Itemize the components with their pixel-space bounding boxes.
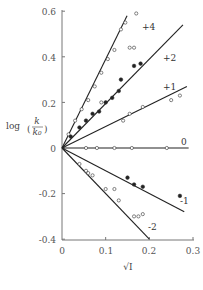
series-label-plus2: +2 (163, 53, 176, 63)
x-tick-label: 0.2 (142, 246, 156, 256)
fit-line (62, 16, 127, 148)
data-point (113, 48, 116, 51)
data-point (117, 89, 121, 93)
y-axis-title: log ( k k₀ ) (6, 116, 48, 137)
y-axis-title-log: log (6, 121, 20, 131)
data-point (97, 110, 101, 114)
x-tick-label: 0.1 (99, 246, 113, 256)
series-label-minus1: -1 (180, 196, 189, 206)
data-point (132, 183, 136, 187)
data-point (132, 215, 135, 218)
y-tick-label: 0.4 (42, 53, 57, 63)
data-point (69, 135, 73, 139)
data-point (100, 71, 103, 74)
y-tick-label: -0.2 (39, 189, 56, 199)
fit-line (62, 148, 184, 212)
data-point (132, 46, 135, 49)
data-point (78, 126, 82, 130)
data-point (84, 119, 88, 123)
data-point (128, 46, 131, 49)
data-point (117, 199, 120, 202)
chart: 0.6 0.4 0.2 0 -0.2 -0.4 0 0.1 0.2 0.3 √I… (0, 0, 203, 290)
data-point (132, 64, 136, 68)
x-tick-label: 0.3 (186, 246, 201, 256)
data-point (124, 21, 127, 24)
data-point (141, 105, 144, 108)
data-point (165, 146, 168, 149)
data-point (113, 146, 116, 149)
data-point (93, 85, 96, 88)
data-point (74, 119, 77, 122)
data-point (141, 185, 145, 189)
fit-line (62, 86, 187, 148)
x-axis-title: √I (123, 262, 133, 272)
data-point (95, 146, 98, 149)
series-label-plus4: +4 (142, 22, 156, 32)
series-label-minus2: -2 (148, 222, 157, 232)
y-tick-label: 0.6 (42, 7, 57, 17)
data-point (80, 108, 83, 111)
x-tick-label: 0 (59, 246, 65, 256)
data-point (91, 112, 95, 116)
data-point (87, 171, 90, 174)
data-point (104, 187, 107, 190)
data-point (135, 12, 138, 15)
data-point (113, 187, 116, 190)
y-tick-label: 0.2 (42, 99, 56, 109)
data-point (84, 146, 87, 149)
data-point (178, 94, 181, 97)
y-tick-label: 0 (50, 144, 56, 154)
data-point (170, 99, 173, 102)
data-point (128, 112, 131, 115)
data-point (104, 101, 108, 105)
data-point (110, 96, 114, 100)
close-paren: ) (44, 124, 48, 134)
data-point (87, 99, 90, 102)
y-axis-title-denominator: k₀ (32, 127, 41, 137)
data-point (100, 101, 103, 104)
data-point (122, 119, 125, 122)
data-point (119, 78, 123, 82)
series-label-zero: 0 (181, 137, 187, 147)
data-point (130, 146, 133, 149)
data-point (91, 174, 94, 177)
data-point (78, 162, 81, 165)
data-point (119, 28, 122, 31)
fit-line (62, 148, 149, 239)
data-point (106, 57, 109, 60)
data-point (139, 62, 143, 66)
open-paren: ( (27, 124, 31, 134)
data-point (141, 213, 144, 216)
y-tick-label: -0.4 (39, 235, 57, 245)
y-axis-title-numerator: k (34, 116, 39, 126)
series-label-plus1: +1 (163, 82, 176, 92)
data-point (126, 176, 130, 180)
data-point (137, 215, 140, 218)
